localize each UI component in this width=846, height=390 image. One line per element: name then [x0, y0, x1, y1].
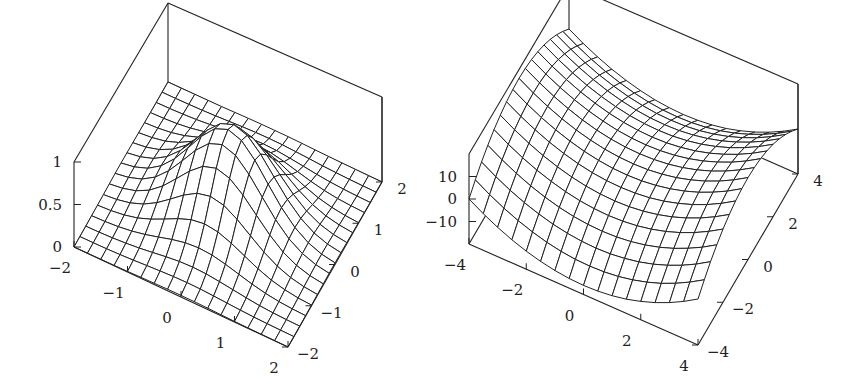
plot-right: −4−2024−4−2024−10010 [425, 0, 822, 375]
y-tick-label: 0 [763, 258, 773, 276]
z-tick-label: 0 [447, 190, 457, 208]
y-tick-label: 4 [813, 172, 823, 190]
x-tick-label: 4 [679, 357, 689, 375]
x-tick-label: 0 [565, 307, 575, 325]
x-tick-label: 2 [622, 332, 632, 350]
z-tick-label: −10 [425, 213, 457, 231]
z-tick-label: 10 [438, 168, 457, 186]
x-tick-label: −2 [501, 281, 523, 299]
y-tick-label: −2 [732, 300, 754, 318]
y-tick-label: 2 [788, 215, 798, 233]
z-axis-ticks: −10010 [425, 168, 476, 231]
y-tick-label: −4 [707, 343, 729, 361]
x-tick-label: −4 [444, 256, 466, 274]
saddle-surface-plot: −4−2024−4−2024−10010 [0, 0, 846, 390]
